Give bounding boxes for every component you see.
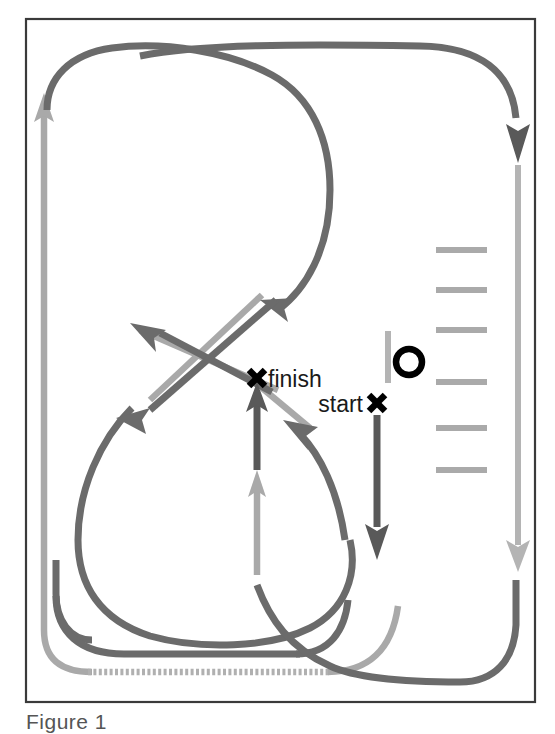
finish-label: finish — [268, 366, 322, 392]
figure-caption: Figure 1 — [26, 710, 107, 734]
start-label: start — [318, 391, 363, 417]
figure-frame — [26, 19, 535, 702]
